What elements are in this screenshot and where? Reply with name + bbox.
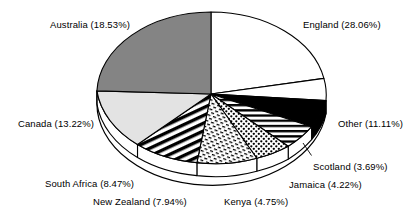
pie-label-canada: Canada (13.22%) xyxy=(18,118,94,129)
pie-label-england: England (28.06%) xyxy=(303,19,381,30)
pie-label-new-zealand: New Zealand (7.94%) xyxy=(93,196,187,207)
pie-label-other: Other (11.11%) xyxy=(338,118,403,129)
pie-label-kenya: Kenya (4.75%) xyxy=(224,196,288,207)
pie-label-scotland: Scotland (3.69%) xyxy=(313,161,387,172)
pie-label-south-africa: South Africa (8.47%) xyxy=(45,178,134,189)
pie-label-australia: Australia (18.53%) xyxy=(50,19,130,30)
pie-label-jamaica: Jamaica (4.22%) xyxy=(289,179,362,190)
pie-slices xyxy=(97,12,326,164)
